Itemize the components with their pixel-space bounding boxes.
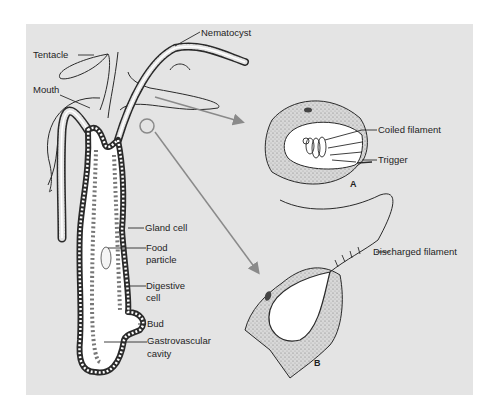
label-food-particle-2: particle: [146, 254, 177, 266]
tentacles: [47, 52, 218, 192]
label-tentacle: Tentacle: [33, 49, 68, 61]
label-food-particle-1: Food: [146, 242, 168, 254]
label-gastrovascular-1: Gastrovascular: [147, 335, 211, 347]
figure-label-a: A: [350, 179, 357, 189]
label-coiled-filament: Coiled filament: [378, 124, 441, 136]
label-gastrovascular-2: cavity: [147, 348, 171, 360]
label-gland-cell: Gland cell: [145, 222, 187, 234]
discharged-filament: [280, 194, 393, 272]
nematocyst-tentacle: [118, 46, 245, 140]
food-particle: [101, 247, 111, 269]
cell-b: [245, 194, 393, 378]
label-digestive-cell-1: Digestive: [146, 280, 185, 292]
label-nematocyst: Nematocyst: [201, 27, 251, 39]
figure-label-b: B: [314, 358, 321, 368]
label-discharged-filament: Discharged filament: [373, 246, 457, 258]
label-mouth: Mouth: [33, 84, 59, 96]
hydra-body: [79, 128, 143, 373]
label-digestive-cell-2: cell: [146, 292, 160, 304]
hydra-illustration: [0, 0, 497, 407]
cell-a: [265, 101, 372, 184]
label-bud: Bud: [147, 318, 164, 330]
label-trigger: Trigger: [378, 154, 408, 166]
